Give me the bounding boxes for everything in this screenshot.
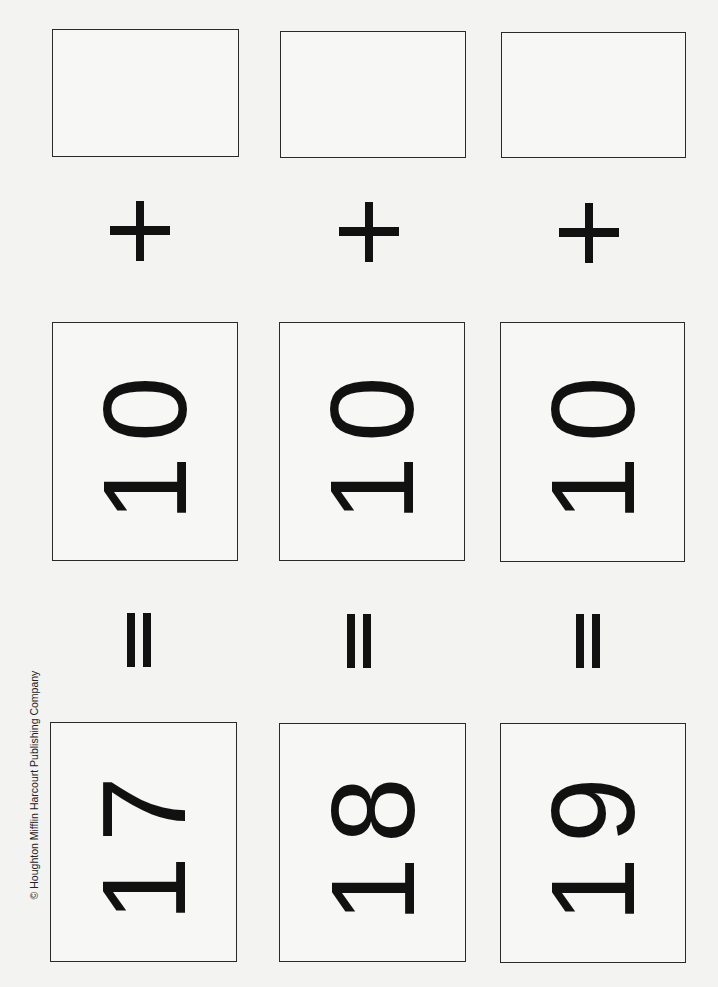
number-label: 17 <box>85 762 203 921</box>
plus-sign-icon <box>559 203 619 263</box>
number-card-ten-3: 10 <box>500 322 685 562</box>
number-label: 19 <box>534 763 652 922</box>
number-label: 10 <box>313 362 431 521</box>
number-card-eighteen: 18 <box>279 723 466 962</box>
number-card-nineteen: 19 <box>500 723 686 963</box>
number-label: 18 <box>314 763 432 922</box>
plus-sign-icon <box>110 201 170 261</box>
number-card-ten-1: 10 <box>52 322 238 561</box>
equals-sign-icon <box>127 613 151 667</box>
blank-card-1[interactable] <box>52 29 239 157</box>
blank-card-3[interactable] <box>501 32 686 158</box>
number-card-seventeen: 17 <box>50 722 237 962</box>
number-card-ten-2: 10 <box>279 322 465 561</box>
copyright-notice: © Houghton Mifflin Harcourt Publishing C… <box>28 671 40 900</box>
equals-sign-icon <box>576 614 600 668</box>
blank-card-2[interactable] <box>280 31 466 158</box>
plus-sign-icon <box>339 202 399 262</box>
number-label: 10 <box>534 362 652 521</box>
equals-sign-icon <box>347 614 371 668</box>
number-label: 10 <box>86 362 204 521</box>
